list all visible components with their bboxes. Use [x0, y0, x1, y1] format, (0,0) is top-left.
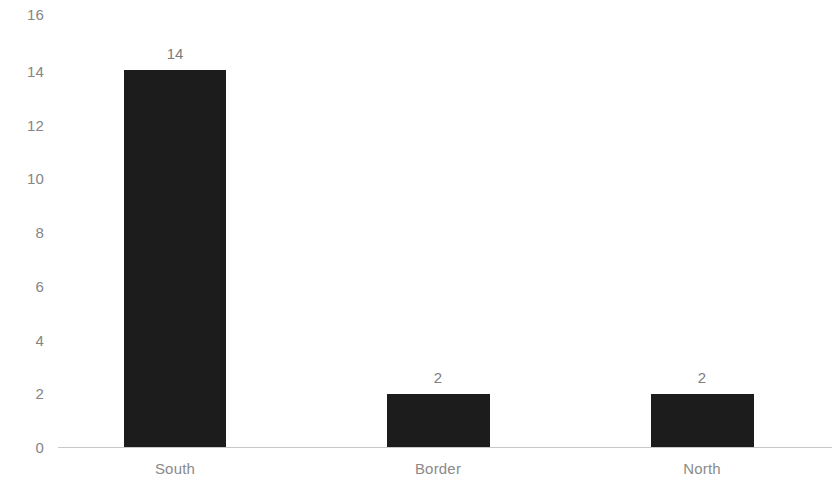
y-axis-tick-label: 16	[0, 7, 44, 22]
x-axis-tick-label-south: South	[155, 461, 195, 476]
y-axis-tick-label: 10	[0, 171, 44, 186]
bar-south	[124, 70, 226, 447]
bar-value-label: 2	[698, 370, 706, 385]
y-axis-tick-label: 12	[0, 118, 44, 133]
bar-value-label: 14	[167, 46, 184, 61]
y-axis-tick-label: 8	[0, 225, 44, 240]
x-axis-tick-label-north: North	[683, 461, 721, 476]
y-axis-tick-label: 14	[0, 64, 44, 79]
bar-north	[651, 394, 754, 447]
x-axis-line	[58, 447, 832, 448]
y-axis-tick-label: 2	[0, 386, 44, 401]
y-axis-tick-label: 4	[0, 333, 44, 348]
bar-value-label: 2	[434, 370, 442, 385]
y-axis-tick-label: 6	[0, 279, 44, 294]
bar-border	[387, 394, 490, 447]
bar-chart: 16 14 12 10 8 6 4 2 0 14 2 2 South Borde…	[0, 0, 832, 479]
y-axis-tick-label: 0	[0, 440, 44, 455]
x-axis-tick-label-border: Border	[415, 461, 461, 476]
plot-area: 16 14 12 10 8 6 4 2 0 14 2 2 South Borde…	[0, 0, 832, 479]
